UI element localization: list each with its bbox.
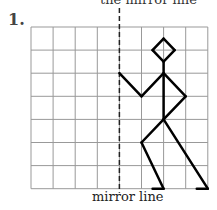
mirror-line-label: mirror line xyxy=(92,189,163,204)
mirror-grid-diagram xyxy=(0,0,217,210)
